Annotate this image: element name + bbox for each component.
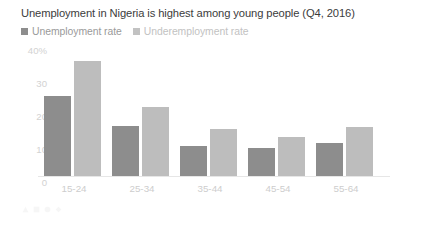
bar-underemployment-rate[interactable] bbox=[278, 137, 305, 176]
bar-unemployment-rate[interactable] bbox=[112, 126, 139, 176]
x-axis-tick: 55-64 bbox=[333, 183, 358, 194]
bar-unemployment-rate[interactable] bbox=[248, 148, 275, 176]
bar-underemployment-rate[interactable] bbox=[210, 129, 237, 176]
triangle-icon bbox=[22, 206, 29, 213]
bar-group bbox=[316, 50, 373, 176]
bar-group bbox=[248, 50, 305, 176]
bar-unemployment-rate[interactable] bbox=[180, 146, 207, 176]
x-axis-tick: 35-44 bbox=[197, 183, 222, 194]
x-axis-tick: 45-54 bbox=[265, 183, 290, 194]
bar-groups bbox=[44, 50, 388, 176]
bar-underemployment-rate[interactable] bbox=[142, 107, 169, 176]
bar-underemployment-rate[interactable] bbox=[346, 127, 373, 176]
axis-baseline bbox=[38, 176, 390, 177]
x-axis: 15-24 25-34 35-44 45-54 55-64 bbox=[44, 183, 388, 199]
x-axis-tick: 25-34 bbox=[129, 183, 154, 194]
diamond-icon bbox=[55, 206, 62, 213]
plot-area: 40% 30 20 10 0 bbox=[0, 0, 421, 230]
footer-watermark bbox=[22, 206, 66, 213]
chart-card: Unemployment in Nigeria is highest among… bbox=[0, 0, 421, 230]
bar-group bbox=[44, 50, 101, 176]
x-axis-tick: 15-24 bbox=[61, 183, 86, 194]
bar-group bbox=[112, 50, 169, 176]
bar-underemployment-rate[interactable] bbox=[74, 61, 101, 176]
circle-icon bbox=[44, 206, 51, 213]
bar-group bbox=[180, 50, 237, 176]
bar-unemployment-rate[interactable] bbox=[44, 96, 71, 176]
bar-unemployment-rate[interactable] bbox=[316, 143, 343, 176]
square-icon bbox=[33, 206, 40, 213]
